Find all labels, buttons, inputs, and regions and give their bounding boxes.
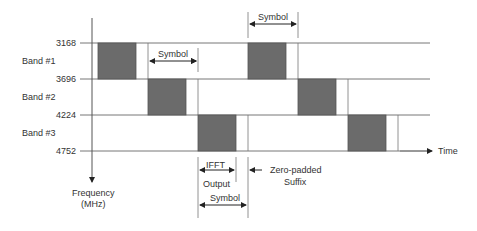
tfi-diagram: Time Frequency (MHz) 3168 3696 4224 4752… [0, 0, 477, 231]
symbol-blocks [98, 43, 386, 151]
band-3-label: Band #3 [22, 128, 56, 138]
band-1-label: Band #1 [22, 56, 56, 66]
tick-3696: 3696 [56, 74, 76, 84]
frequency-unit: (MHz) [81, 199, 106, 209]
symbol-bottom-label: Symbol [210, 193, 240, 203]
ifft-label-2: Output [203, 179, 231, 189]
frequency-label: Frequency [72, 188, 115, 198]
symbol-top-label: Symbol [258, 12, 288, 22]
tick-4752: 4752 [56, 146, 76, 156]
tick-3168: 3168 [56, 38, 76, 48]
band-2-label: Band #2 [22, 92, 56, 102]
time-label: Time [438, 146, 458, 156]
zero-padded-label-2: Suffix [284, 177, 307, 187]
symbol-band1-label: Symbol [158, 49, 188, 59]
ifft-label-1: IFFT [206, 160, 225, 170]
tick-4224: 4224 [56, 110, 76, 120]
zero-padded-label-1: Zero-padded [270, 165, 322, 175]
